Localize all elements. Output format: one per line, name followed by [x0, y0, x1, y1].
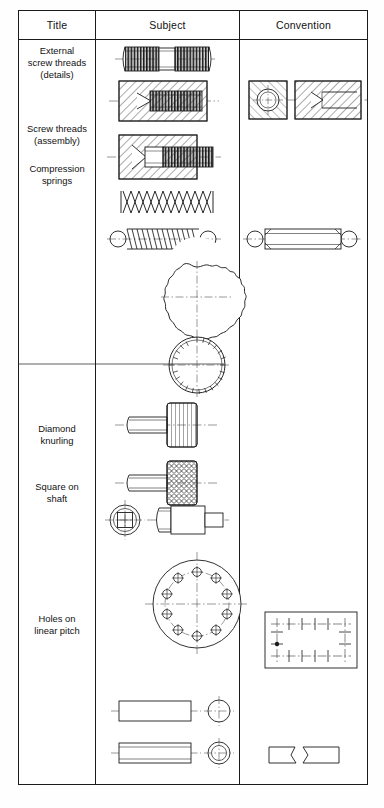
plate-with-linear-pitch-hole-centres — [265, 612, 357, 668]
hollow-rod-with-end-circle — [111, 738, 234, 768]
column-divider-title-subject — [95, 11, 96, 784]
row-title-line: springs — [21, 175, 93, 187]
conventions-table: Title Subject Convention External screw … — [18, 10, 368, 785]
bolt-hole — [161, 566, 233, 642]
column-header-subject: Subject — [96, 11, 239, 39]
interrupted-broken-view — [269, 747, 339, 763]
header-divider — [19, 39, 367, 40]
fine-knurl-end-view-circle — [19, 331, 231, 399]
row-title-line: (assembly) — [21, 135, 93, 147]
row-title-line: knurling — [21, 435, 93, 447]
thumbscrew-straight-knurl — [115, 403, 219, 447]
plain-rod-with-end-circle — [111, 696, 234, 726]
square-on-shaft-end-view — [105, 500, 145, 540]
tapped-hole-section-simplified — [287, 81, 367, 119]
row-title-line: External — [21, 45, 93, 57]
column-divider-subject-convention — [239, 11, 240, 784]
sectioned-tapped-blind-hole — [109, 81, 219, 121]
row-title-line: screw threads — [21, 57, 93, 69]
row-title-line: shaft — [21, 493, 93, 505]
helical-compression-spring — [121, 191, 213, 213]
row-title-external-screw-threads: External screw threads (details) — [21, 45, 93, 82]
row-title-line: Screw threads — [21, 123, 93, 135]
extension-spring-simplified-outline — [243, 229, 363, 249]
row-title-diamond-knurling: Diamond knurling — [21, 423, 93, 447]
bolt-circle-ten-holes-pitch-circle — [145, 552, 249, 656]
extension-spring-with-hook-ends — [107, 229, 221, 249]
screw-in-tapped-hole-assembly-section — [107, 135, 221, 179]
row-title-line: Holes on — [21, 613, 93, 625]
row-title-line: Compression — [21, 163, 93, 175]
coarse-knurl-outline — [164, 264, 246, 339]
row-title-screw-threads-assembly: Screw threads (assembly) — [21, 123, 93, 147]
row-title-square-on-shaft: Square on shaft — [21, 481, 93, 505]
row-title-line: (details) — [21, 69, 93, 81]
row-title-line: Diamond — [21, 423, 93, 435]
coarse-knurl-end-view-circle — [161, 237, 248, 339]
row-title-holes-on-linear-pitch: Holes on linear pitch — [21, 613, 93, 637]
drawing-sheet: Title Subject Convention External screw … — [0, 0, 384, 808]
thumbscrew-diamond-knurl — [115, 461, 219, 505]
row-title-compression-springs: Compression springs — [21, 163, 93, 187]
row-title-line: linear pitch — [21, 625, 93, 637]
column-header-title: Title — [19, 11, 95, 39]
double-ended-stud-with-threads — [115, 47, 215, 71]
row-title-line: Square on — [21, 481, 93, 493]
stepped-shaft-with-square-section — [147, 506, 229, 534]
tapped-hole-end-view-square — [249, 81, 287, 119]
column-header-convention: Convention — [240, 11, 367, 39]
